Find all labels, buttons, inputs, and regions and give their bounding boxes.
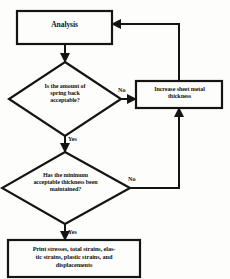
- thickness-line-1: Has the minimum: [16, 172, 115, 179]
- springback-line-2: spring back: [24, 90, 106, 97]
- print-line-1: Print stresses, total strains, elas-: [12, 245, 136, 253]
- print-line-2: tic strains, plastic strains, and: [12, 253, 136, 261]
- node-increase-thickness-label: Increase sheet metal thickness: [137, 86, 222, 100]
- increase-line-1: Increase sheet metal: [137, 86, 222, 93]
- edge-thickness-no-to-increase: [130, 108, 179, 188]
- analysis-text: Analysis: [51, 20, 78, 29]
- node-springback-decision-label: Is the amount of spring back acceptable?: [24, 83, 106, 105]
- thickness-line-3: maintained?: [16, 186, 115, 193]
- edge-label-springback-yes: Yes: [68, 135, 77, 142]
- thickness-line-2: acceptable thickness been: [16, 179, 115, 186]
- flowchart-graphics: Increase thickness --> Decision 2 --> ri…: [0, 0, 230, 279]
- increase-line-2: thickness: [137, 93, 222, 100]
- edge-increase-to-analysis-return: [112, 24, 179, 81]
- node-print-results-label: Print stresses, total strains, elas- tic…: [12, 245, 136, 270]
- edge-label-thickness-yes: Yes: [68, 228, 77, 235]
- flowchart-canvas: Increase thickness --> Decision 2 --> ri…: [0, 0, 230, 279]
- edge-label-springback-no: No: [118, 86, 126, 93]
- node-analysis-label: Analysis: [17, 21, 112, 30]
- springback-line-1: Is the amount of: [24, 83, 106, 90]
- springback-line-3: acceptable?: [24, 97, 106, 104]
- node-thickness-decision-label: Has the minimum acceptable thickness bee…: [16, 172, 115, 194]
- edge-label-thickness-no: No: [128, 175, 136, 182]
- print-line-3: displacements: [12, 261, 136, 269]
